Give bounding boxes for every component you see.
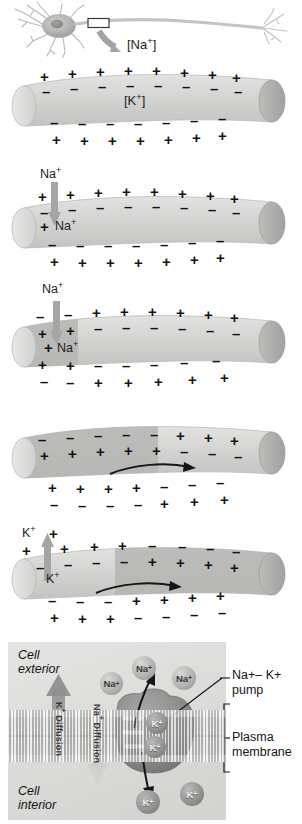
charge-minus: – — [134, 116, 142, 131]
charge-plus: + — [106, 611, 115, 626]
charge-plus: + — [218, 128, 227, 143]
charge-minus: – — [104, 238, 112, 253]
charge-plus: + — [188, 590, 197, 605]
charge-plus: + — [78, 255, 87, 270]
charge-minus: – — [48, 593, 56, 608]
charge-plus: + — [230, 433, 239, 448]
charge-plus: + — [160, 592, 169, 607]
charge-minus: – — [134, 497, 142, 512]
charge-minus: – — [148, 538, 156, 553]
charge-minus: – — [190, 607, 198, 622]
charge-plus: + — [124, 443, 133, 458]
charge-minus: – — [162, 609, 170, 624]
na-ion-exterior: Na+ — [132, 656, 156, 680]
charge-minus: – — [218, 605, 226, 620]
charge-minus: – — [234, 84, 242, 99]
charge-plus: + — [124, 63, 133, 78]
charge-plus: + — [176, 305, 185, 320]
charge-plus: + — [136, 133, 145, 148]
charge-minus: – — [78, 498, 86, 513]
charge-minus: – — [160, 237, 168, 252]
charge-minus: – — [150, 427, 158, 442]
charge-plus: + — [68, 446, 77, 461]
charge-minus: – — [162, 115, 170, 130]
charge-minus: – — [152, 199, 160, 214]
charge-plus: + — [76, 481, 85, 496]
charge-minus: – — [232, 544, 240, 559]
charge-plus: + — [50, 254, 59, 269]
charge-plus: + — [124, 375, 133, 390]
charge-plus: + — [220, 370, 229, 385]
charge-plus: + — [40, 219, 49, 234]
charge-minus: – — [206, 323, 214, 338]
charge-minus: – — [188, 477, 196, 492]
charge-plus: + — [38, 189, 47, 204]
charge-minus: – — [76, 238, 84, 253]
panel-5-repolarization: K+ + + + + + – — [0, 515, 302, 635]
na-diffusion-label: Na+ Diffusion — [92, 704, 102, 763]
charge-plus: + — [230, 560, 239, 575]
charge-plus: + — [148, 304, 157, 319]
k-ion-bound: K+ — [146, 712, 168, 734]
charge-minus: – — [124, 199, 132, 214]
k-ion-interior: K+ — [136, 790, 160, 814]
charge-minus: – — [190, 113, 198, 128]
charge-minus: – — [216, 233, 224, 248]
charge-minus: – — [206, 541, 214, 556]
charge-plus: + — [22, 543, 31, 558]
charge-minus: – — [178, 539, 186, 554]
charge-minus: – — [106, 498, 114, 513]
charge-minus: – — [122, 358, 130, 373]
charge-minus: – — [180, 200, 188, 215]
charge-plus: + — [220, 492, 229, 507]
neuron-illustration: [Na+] — [0, 0, 302, 58]
nerve-impulse-figure: [Na+] — [0, 0, 302, 824]
na-inside-label: Na+ — [57, 342, 78, 355]
charge-plus: + — [120, 304, 129, 319]
charge-plus: + — [152, 443, 161, 458]
charge-plus: + — [94, 375, 103, 390]
charge-plus: + — [204, 307, 213, 322]
charge-plus: + — [94, 185, 103, 200]
charge-minus: – — [182, 79, 190, 94]
charge-plus: + — [104, 481, 113, 496]
charge-plus: + — [92, 305, 101, 320]
k-ion-bound: K+ — [144, 736, 166, 758]
charge-minus: – — [96, 200, 104, 215]
charge-minus: – — [208, 202, 216, 217]
panel-1-resting: + + + + + + + + – – – – – – – – [K+] – –… — [0, 60, 302, 160]
charge-plus: + — [96, 64, 105, 79]
charge-plus: + — [154, 374, 163, 389]
charge-plus: + — [190, 494, 199, 509]
charge-plus: + — [150, 184, 159, 199]
charge-plus: + — [176, 555, 185, 570]
charge-minus: – — [106, 116, 114, 131]
plasma-membrane-label: Plasma membrane — [232, 730, 292, 759]
charge-plus: + — [108, 133, 117, 148]
charge-minus: – — [154, 78, 162, 93]
charge-minus: – — [150, 320, 158, 335]
charge-plus: + — [106, 255, 115, 270]
charge-plus: + — [66, 323, 75, 338]
charge-minus: – — [64, 557, 72, 572]
charge-plus: + — [48, 480, 57, 495]
charge-plus: + — [192, 130, 201, 145]
charge-plus: + — [66, 358, 75, 373]
k-inside-label: K+ — [46, 573, 60, 586]
charge-minus: – — [132, 238, 140, 253]
charge-minus: – — [160, 479, 168, 494]
charge-plus: + — [188, 372, 197, 387]
cell-exterior-label: Cell exterior — [18, 648, 60, 676]
charge-plus: + — [204, 430, 213, 445]
charge-minus: – — [68, 202, 76, 217]
charge-plus: + — [78, 611, 87, 626]
charge-minus: – — [218, 111, 226, 126]
k-diffusion-label: K+ Diffusion — [54, 702, 64, 756]
charge-plus: + — [122, 184, 131, 199]
na-ion-exterior: Na+ — [100, 672, 123, 695]
na-ion-exterior: Na+ — [172, 666, 196, 690]
charge-minus: – — [98, 79, 106, 94]
charge-plus: + — [134, 255, 143, 270]
charge-plus: + — [60, 541, 69, 556]
charge-minus: – — [38, 432, 46, 447]
